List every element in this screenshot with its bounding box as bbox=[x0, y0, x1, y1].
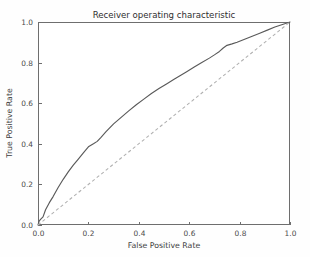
y-tick-label: 0.8 bbox=[21, 59, 33, 68]
x-tick-label: 1.0 bbox=[285, 229, 297, 238]
x-tick-label: 0.8 bbox=[235, 229, 247, 238]
y-tick-label: 1.0 bbox=[21, 18, 33, 27]
y-axis-label: True Positive Rate bbox=[5, 88, 14, 159]
x-axis-label: False Positive Rate bbox=[128, 241, 201, 250]
figure-canvas: 0.00.20.40.60.81.0 0.00.20.40.60.81.0 Re… bbox=[0, 0, 310, 257]
chart-title: Receiver operating characteristic bbox=[93, 10, 236, 20]
y-tick-label: 0.6 bbox=[21, 99, 33, 108]
x-tick-label: 0.0 bbox=[33, 229, 45, 238]
x-tick-label: 0.4 bbox=[134, 229, 146, 238]
roc-chart: 0.00.20.40.60.81.0 0.00.20.40.60.81.0 Re… bbox=[0, 0, 310, 257]
y-tick-label: 0.0 bbox=[21, 221, 33, 230]
x-tick-label: 0.2 bbox=[83, 229, 95, 238]
x-tick-label: 0.6 bbox=[184, 229, 196, 238]
y-tick-label: 0.4 bbox=[21, 140, 33, 149]
y-tick-label: 0.2 bbox=[21, 180, 33, 189]
